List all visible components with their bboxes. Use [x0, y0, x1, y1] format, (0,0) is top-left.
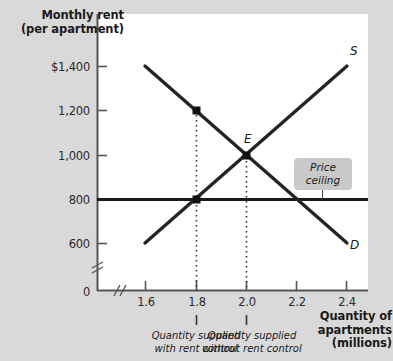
price-ceiling-label-line2: ceiling: [299, 174, 347, 187]
x-tick-label-1-6: 1.6: [126, 295, 166, 309]
y-axis-title-line1: Monthly rent: [6, 8, 124, 22]
chart-figure: Monthly rent (per apartment) $1,400 1,20…: [0, 0, 393, 361]
marker-equilibrium: [243, 152, 251, 160]
annotation-2-line2: without rent control: [185, 343, 319, 356]
x-tick-label-1-8: 1.8: [177, 295, 217, 309]
plot-background: [97, 14, 368, 291]
y-tick-label-1400: $1,400: [6, 60, 90, 74]
demand-curve-label: D: [350, 238, 359, 252]
x-tick-label-2-0: 2.0: [227, 295, 267, 309]
price-ceiling-label-line1: Price: [299, 161, 347, 174]
x-axis-title-line1: Quantity of: [300, 310, 392, 324]
annotation-quantity-supplied-without-rent-control: Quantity supplied without rent control: [185, 330, 319, 355]
equilibrium-label: E: [244, 132, 252, 146]
x-tick-label-2-4: 2.4: [327, 295, 367, 309]
y-axis-title: Monthly rent (per apartment): [6, 8, 124, 36]
y-tick-label-600: 600: [6, 237, 90, 251]
y-tick-label-800: 800: [6, 193, 90, 207]
marker-supply-ceiling: [193, 196, 201, 204]
price-ceiling-callout: Price ceiling: [294, 158, 352, 190]
annotation-tick-marks: [197, 315, 247, 325]
x-tick-label-2-2: 2.2: [277, 295, 317, 309]
y-tick-label-1200: 1,200: [6, 104, 90, 118]
marker-demand-1-8: [193, 107, 201, 115]
y-tick-label-0: 0: [6, 285, 90, 299]
supply-curve-label: S: [350, 44, 358, 58]
annotation-2-line1: Quantity supplied: [185, 330, 319, 343]
y-axis-title-line2: (per apartment): [6, 22, 124, 36]
y-tick-label-1000: 1,000: [6, 149, 90, 163]
